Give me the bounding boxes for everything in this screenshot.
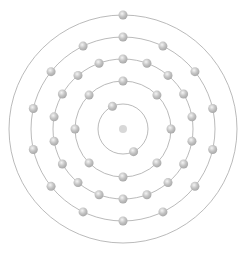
electron-icon	[50, 112, 59, 121]
electron-icon	[58, 90, 67, 99]
electron-icon	[187, 137, 196, 146]
electron-icon	[129, 147, 138, 156]
electron-icon	[74, 71, 83, 80]
electron-icon	[190, 67, 199, 76]
electron-icon	[187, 112, 196, 121]
electron-icon	[79, 42, 88, 51]
electron-icon	[47, 182, 56, 191]
electron-icon	[108, 102, 117, 111]
electron-icon	[142, 190, 151, 199]
electron-icon	[164, 178, 173, 187]
electron-icon	[119, 77, 128, 86]
electron-icon	[29, 104, 38, 113]
electron-icon	[167, 125, 176, 134]
electron-icon	[79, 207, 88, 216]
electron-icon	[29, 145, 38, 154]
electron-icon	[152, 91, 161, 100]
electron-icon	[71, 125, 80, 134]
electron-icon	[190, 182, 199, 191]
electron-icon	[74, 178, 83, 187]
electron-icon	[208, 145, 217, 154]
electron-icon	[85, 91, 94, 100]
electron-icon	[119, 195, 128, 204]
nucleus	[119, 125, 127, 133]
nucleus-icon	[119, 125, 127, 133]
electron-icon	[119, 11, 128, 20]
electron-icon	[47, 67, 56, 76]
electron-icon	[95, 190, 104, 199]
electron-icon	[179, 160, 188, 169]
electron-icon	[158, 207, 167, 216]
electron-icon	[152, 158, 161, 167]
electron-icon	[85, 158, 94, 167]
electron-icon	[179, 90, 188, 99]
electron-icon	[119, 33, 128, 42]
electron-icon	[119, 217, 128, 226]
electron-icon	[58, 160, 67, 169]
electron-icon	[95, 59, 104, 68]
electron-icon	[119, 55, 128, 64]
electron-icon	[50, 137, 59, 146]
electron-icon	[119, 173, 128, 182]
electron-icon	[164, 71, 173, 80]
electron-icon	[142, 59, 151, 68]
electron-icon	[208, 104, 217, 113]
electron-icon	[158, 42, 167, 51]
bohr-atom-diagram	[0, 0, 243, 254]
